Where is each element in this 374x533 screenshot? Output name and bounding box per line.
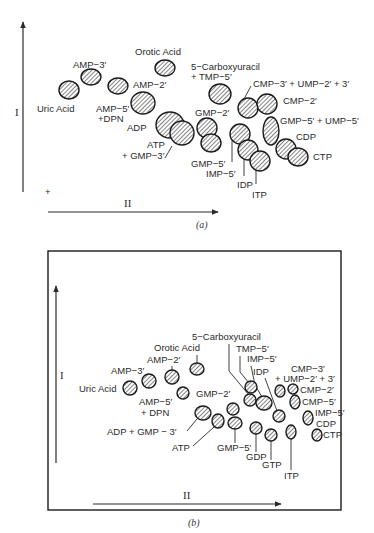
spot-label: AMP−5′ (139, 396, 172, 407)
spot-label: ITP (284, 470, 299, 481)
spot-atp (212, 414, 224, 428)
spot-label: ITP (252, 189, 267, 200)
spot-label: CTP (313, 151, 332, 162)
spot-amp-3 (142, 374, 156, 388)
spot-ctp (312, 429, 322, 441)
spot-cmp-2 (288, 384, 298, 394)
spot-label: +DPN (98, 113, 124, 124)
axis-ii-label: II (124, 197, 132, 209)
axis-i-label-b: I (60, 369, 64, 381)
spot-label: + TMP−5′ (191, 71, 232, 82)
spot-amp-5-dpn (108, 78, 128, 94)
spot-label: CMP−3′ + UMP−2′ + 3′ (253, 78, 349, 89)
spot-label: + DPN (141, 407, 169, 418)
spot-carboxyuracil (244, 394, 256, 406)
spot-label: CDP (296, 131, 316, 142)
spot-label: Uric Acid (79, 383, 116, 394)
spot-label: CDP (316, 418, 336, 429)
spot-label: ATP (147, 139, 165, 150)
chromatogram-figure: I + II (a) Uric AcidAMP−3′AMP−5′+DPNOrot… (0, 0, 374, 533)
caption-b: (b) (188, 517, 200, 529)
axis-ii-label-b: II (183, 489, 191, 501)
spot-label: AMP−3′ (73, 59, 106, 70)
spot-label: IMP−5′ (315, 407, 345, 418)
spot-orotic-acid (190, 363, 204, 375)
spot-label: ATP (172, 442, 190, 453)
spot-label: CMP−2′ (300, 384, 334, 395)
spots-a (59, 60, 308, 171)
figure-b: I II (b) 5−CarboxyuracilTMP−5′Orotic Aci… (48, 251, 345, 529)
spot-label: CTP (323, 429, 342, 440)
spot-label: GMP−2′ (196, 388, 230, 399)
spot-itp (250, 151, 270, 171)
spot-cmp-2 (257, 94, 277, 114)
spot-label: IDP (253, 366, 269, 377)
spot-carboxyuracil-tmp-5 (209, 84, 231, 104)
spot-amp-5-dpn (177, 387, 189, 399)
labels-b: 5−CarboxyuracilTMP−5′Orotic AcidIMP−5′AM… (79, 331, 345, 481)
spot-label: AMP−2′ (133, 79, 166, 90)
spot-label: Uric Acid (37, 103, 74, 114)
spot-label: IMP−5′ (206, 168, 236, 179)
spot-gtp (265, 429, 277, 441)
spot-itp (286, 425, 296, 439)
spot-label: 5−Carboxyuracil (192, 331, 261, 342)
spot-amp-2 (165, 370, 179, 384)
spot-gmp-5 (201, 134, 221, 152)
spot-label: GMP−2′ (195, 107, 229, 118)
spot-label: CMP−2′ (283, 95, 317, 106)
spot-tmp-5 (245, 381, 257, 393)
spot-imp-5-mid (256, 396, 272, 410)
spot-cmp-3-ump-2-3 (238, 98, 258, 118)
spot-label: IDP (237, 179, 253, 190)
origin-marker: + (45, 186, 51, 197)
spot-amp-3 (81, 69, 101, 85)
spot-gdp (250, 422, 262, 434)
spot-label: + UMP−2′ + 3′ (275, 373, 335, 384)
spot-uric-acid (123, 381, 137, 395)
spot-label: ADP (127, 122, 147, 133)
spot-label: GMP−5′ + UMP−5′ (280, 115, 359, 126)
spot-cmp-3-ump (275, 385, 285, 397)
caption-a: (a) (196, 219, 208, 231)
spot-gmp-5 (228, 417, 242, 429)
spot-ctp (288, 148, 308, 166)
spot-label: IMP−5′ (247, 353, 277, 364)
spot-label: Orotic Acid (154, 342, 200, 353)
spot-idp (273, 410, 285, 422)
spot-gmp-2-a (227, 403, 239, 415)
spot-atp-gmp-3 (170, 121, 194, 145)
figure-a: I + II (a) Uric AcidAMP−3′AMP−5′+DPNOrot… (15, 22, 359, 231)
spot-label: CMP−5′ (302, 396, 336, 407)
spot-label: Orotic Acid (135, 46, 181, 57)
spot-imp-5-cdp (303, 411, 313, 425)
spot-label: AMP−2′ (147, 354, 180, 365)
spot-uric-acid (59, 81, 79, 99)
spot-orotic-acid (155, 60, 175, 76)
spot-label: + GMP−3′ (122, 150, 165, 161)
spot-label: ADP + GMP − 3′ (107, 426, 177, 437)
spot-gmp-5-ump-5 (263, 117, 279, 145)
spot-cmp-5 (290, 395, 300, 409)
axis-i-label: I (15, 106, 19, 118)
spot-adp-gmp-3 (195, 406, 211, 420)
spot-label: AMP−3′ (111, 365, 144, 376)
spot-label: GTP (262, 459, 282, 470)
spot-amp-2 (131, 92, 155, 114)
